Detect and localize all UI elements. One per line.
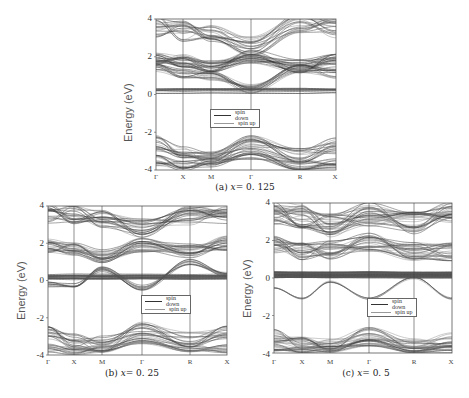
legend-c: spin down spin up [367,298,417,317]
y-tick-m4-c: -4 [256,349,270,359]
x-tick-x1-c: X [299,358,304,366]
band-structure-plot-c [0,0,469,398]
legend-spin-down-c: spin down [371,300,413,308]
x-tick-gamma2-c: Γ [367,358,371,366]
panel-c: Energy (eV) 4 2 0 -2 -4 Γ X M Γ R X spin… [0,0,469,398]
legend-label-spin-up: spin up [395,309,413,315]
legend-line-spin-down [371,304,388,305]
y-tick-4-c: 4 [256,197,270,207]
x-tick-r-c: R [412,358,417,366]
y-axis-label-c: Energy (eV) [241,259,253,318]
y-tick-2-c: 2 [256,235,270,245]
x-tick-gamma1-c: Γ [272,358,276,366]
caption-prefix-c: (c) [342,368,354,378]
caption-c: (c) x= 0. 5 [342,368,390,378]
y-tick-0-c: 0 [256,273,270,283]
caption-value-c: = 0. 5 [362,368,390,378]
x-tick-x2-c: X [448,358,453,366]
legend-line-spin-up [371,312,391,313]
y-tick-m2-c: -2 [256,311,270,321]
x-tick-m-c: M [327,358,333,366]
